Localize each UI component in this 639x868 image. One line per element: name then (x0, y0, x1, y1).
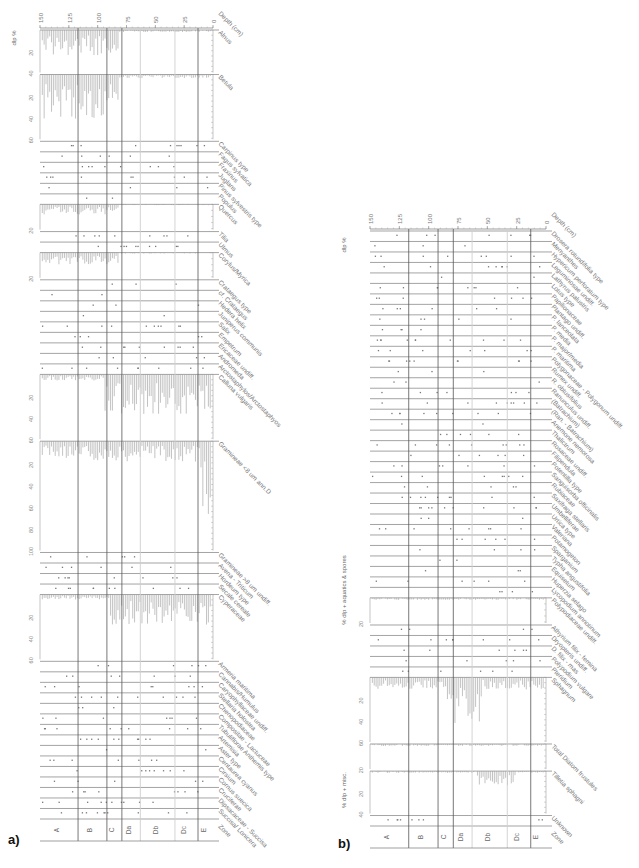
taxon-row: Filipendula (370, 450, 578, 478)
zone-label: A (383, 834, 390, 839)
depth-tick-label: 25 (515, 217, 521, 224)
depth-tick-label: 125 (67, 12, 73, 23)
percent-tick-label: 20 (28, 395, 34, 401)
group-axis-label: dlp % (341, 237, 347, 253)
percent-tick-label: 40 (358, 811, 364, 817)
zone-label: C (108, 827, 115, 832)
taxon-row: (Batrachium) (370, 397, 582, 429)
taxon-row: Hedera helix (40, 300, 249, 331)
percent-tick-label: 60 (28, 437, 34, 443)
taxon-row: 204060Cyperaceae (28, 593, 247, 663)
depth-tick-label: 0 (211, 19, 217, 23)
taxon-row: Potentilla type (370, 460, 584, 495)
zone-label: B (417, 835, 424, 839)
taxon-row: Juglans (40, 172, 239, 194)
taxon-row: Umbelliferae (370, 502, 581, 533)
percent-tick-label: 20 (358, 791, 364, 797)
percent-tick-label: 20 (28, 228, 34, 234)
taxon-row: Lotus type (370, 282, 577, 309)
taxon-label: Total Diatom frustules (550, 743, 600, 793)
taxon-row: 204060Calluna vulgaris (28, 373, 255, 443)
panel-b: 1501251007550250Depth (cm)Drosera rotund… (341, 211, 625, 848)
percent-tick-label: 40 (358, 719, 364, 725)
percent-tick-label: 20 (358, 767, 364, 773)
percent-tick-label: 20 (28, 615, 34, 621)
taxon-label: Betula (217, 73, 235, 91)
pollen-diagram-figure: 1501251007550250Depth (cm)2040Alnus20406… (0, 0, 639, 868)
taxon-row: Cirsium (40, 765, 238, 786)
zone-label: E (200, 827, 207, 832)
taxon-row: Rubiaceae (370, 481, 577, 508)
zone-label: Db (152, 825, 159, 834)
percent-tick-label: 60 (28, 137, 34, 143)
zone-label: Da (457, 832, 464, 841)
percent-tick-label: 40 (28, 416, 34, 422)
percent-tick-label: 60 (28, 505, 34, 511)
panel-a: 1501251007550250Depth (cm)2040Alnus20406… (11, 10, 283, 850)
percent-tick-label: 40 (28, 116, 34, 122)
depth-tick-label: 100 (427, 213, 433, 224)
taxon-row: P. media (370, 324, 573, 347)
taxon-row: Sparganium (370, 544, 580, 574)
percent-tick-label: 20 (28, 276, 34, 282)
percent-tick-label: 60 (358, 740, 364, 746)
taxon-row: P. maritima (370, 345, 578, 373)
percent-tick-label: 20 (28, 95, 34, 101)
percent-tick-label: 100 (28, 547, 34, 556)
percent-tick-label: 20 (358, 621, 364, 627)
taxon-row: 2040Alnus (28, 29, 234, 77)
taxon-row: Artemisia (40, 734, 242, 758)
depth-tick-label: 150 (38, 12, 44, 23)
taxon-row: 20406080100Gramineae <8 um ann.D (28, 440, 273, 556)
depth-tick-label: 25 (182, 16, 188, 23)
percent-tick-label: 40 (28, 636, 34, 642)
panel-a-label: a) (8, 832, 20, 847)
taxon-row: Potamogeton (370, 534, 583, 567)
percent-tick-label: 20 (28, 50, 34, 56)
depth-tick-label: 150 (368, 213, 374, 224)
depth-tick-label: 75 (456, 217, 462, 224)
taxon-label: Gramineae <8 um ann.D (217, 440, 273, 496)
depth-tick-label: 75 (125, 16, 131, 23)
group-axis-label: % dlp + misc. (341, 772, 347, 808)
taxon-row: Populus (40, 193, 239, 216)
zone-label: A (53, 827, 60, 832)
taxon-row: Salix (40, 321, 233, 336)
taxon-row: D. filix - mas (370, 645, 581, 676)
group-axis-label: % dlp + aquatics & spores (341, 555, 347, 625)
depth-tick-label: 50 (485, 217, 491, 224)
taxon-row: Ulmus (40, 241, 236, 260)
zone-label: Dc (180, 825, 187, 834)
group-axis-label: dlp % (11, 30, 17, 46)
percent-tick-label: 40 (28, 70, 34, 76)
taxon-row: 204060Sphagnum (358, 676, 577, 746)
taxon-row: Empetrum (40, 331, 243, 358)
depth-tick-label: 50 (153, 16, 159, 23)
taxon-row: Papilionaceae (370, 293, 584, 328)
depth-tick-label: 125 (397, 213, 403, 224)
zone-label: E (532, 834, 539, 839)
zone-label: Db (484, 832, 491, 841)
depth-tick-label: 0 (544, 220, 550, 224)
taxon-row: Equisetum (370, 565, 577, 592)
taxon-row: Andromeda (40, 352, 246, 381)
depth-tick-label: 100 (96, 12, 102, 23)
percent-tick-label: 20 (358, 698, 364, 704)
percent-tick-label: 80 (28, 527, 34, 533)
percent-tick-label: 40 (28, 483, 34, 489)
percent-tick-label: 20 (28, 462, 34, 468)
taxon-row: Aster type (40, 744, 243, 771)
zone-label: C (440, 834, 447, 839)
taxon-row: Menyanthes (370, 240, 581, 271)
panel-b-label: b) (338, 836, 350, 851)
taxon-label: Alnus (217, 29, 234, 46)
taxon-row: Urtica type (370, 513, 577, 541)
zone-label: Dc (513, 832, 520, 841)
zone-label: B (86, 828, 93, 832)
taxon-row: 204060Betula (28, 73, 236, 143)
percent-tick-label: 60 (28, 657, 34, 663)
zone-label: Da (125, 825, 132, 834)
taxon-row: 20Quercus (28, 203, 240, 234)
